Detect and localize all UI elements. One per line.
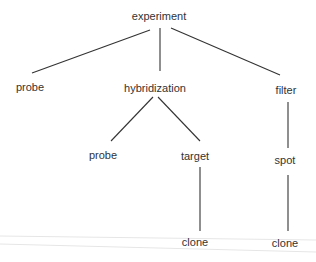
- tree-edges: [0, 0, 316, 262]
- node-clone-target: clone: [182, 236, 208, 248]
- node-target: target: [181, 150, 209, 162]
- node-hybridization: hybridization: [124, 82, 186, 94]
- node-experiment: experiment: [132, 10, 186, 22]
- edge-hybridization-probe: [111, 97, 153, 141]
- node-filter: filter: [276, 84, 297, 96]
- node-clone-spot: clone: [272, 237, 298, 249]
- tree-diagram: experiment probe hybridization filter pr…: [0, 0, 316, 262]
- scan-artifact-lines: [0, 236, 316, 252]
- node-probe-child: probe: [89, 149, 117, 161]
- edge-experiment-filter: [171, 28, 280, 75]
- node-spot: spot: [275, 154, 296, 166]
- node-probe: probe: [16, 81, 44, 93]
- edge-hybridization-target: [158, 97, 200, 141]
- edge-experiment-probe: [32, 30, 150, 73]
